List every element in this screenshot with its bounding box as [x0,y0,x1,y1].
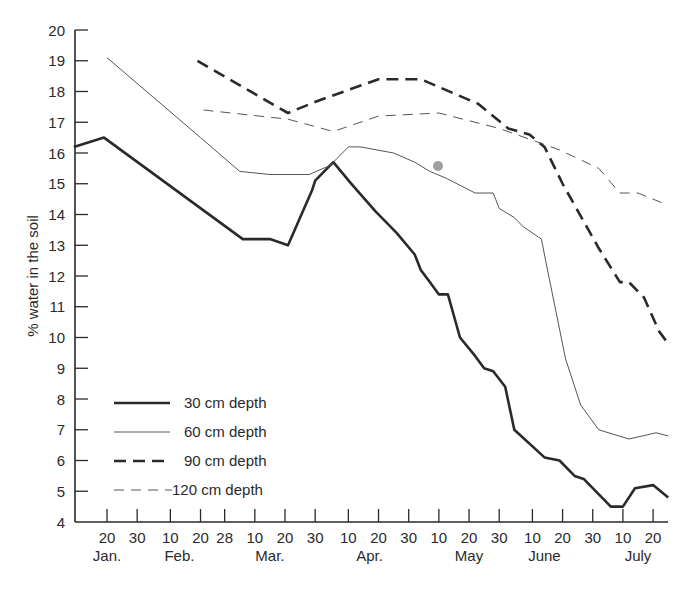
month-label: Mar. [255,547,284,564]
y-tick-label: 6 [57,452,65,469]
month-label: May [455,547,484,564]
x-tick-label: 10 [162,529,179,546]
x-tick-label: 10 [524,529,541,546]
y-tick-label: 18 [48,83,65,100]
x-tick-label: 10 [431,529,448,546]
y-tick-label: 20 [48,22,65,39]
y-tick-label: 14 [48,206,65,223]
x-tick-label: 30 [584,529,601,546]
x-tick-label: 20 [192,529,209,546]
x-tick-label: 28 [216,529,233,546]
y-tick-label: 12 [48,268,65,285]
x-tick-label: 10 [340,529,357,546]
x-tick-label: 30 [491,529,508,546]
x-tick-label: 20 [645,529,662,546]
ink-smudge [433,161,443,171]
legend-label-60cm: 60 cm depth [184,423,267,440]
x-axis-ticks: 20301020281020301020301020301020301020Ja… [93,509,662,564]
month-label: Feb. [164,547,194,564]
x-tick-label: 30 [129,529,146,546]
x-tick-label: 20 [461,529,478,546]
y-tick-label: 7 [57,421,65,438]
y-tick-label: 10 [48,329,65,346]
legend-label-90cm: 90 cm depth [184,452,267,469]
series-line-30cm [74,138,668,507]
y-axis-ticks: 4567891011121314151617181920 [48,22,88,531]
y-tick-label: 17 [48,114,65,131]
x-tick-label: 20 [554,529,571,546]
series-line-90cm [198,61,669,344]
x-tick-label: 30 [400,529,417,546]
x-tick-label: 30 [307,529,324,546]
data-series [74,58,668,507]
x-tick-label: 10 [246,529,263,546]
y-tick-label: 15 [48,175,65,192]
legend: 30 cm depth 60 cm depth 90 cm depth 120 … [114,394,267,498]
x-tick-label: 20 [99,529,116,546]
axes [75,30,668,522]
y-axis-label: % water in the soil [24,215,41,337]
y-tick-label: 13 [48,237,65,254]
soil-water-chart: 4567891011121314151617181920 20301020281… [0,0,697,593]
legend-label-30cm: 30 cm depth [184,394,267,411]
y-tick-label: 16 [48,145,65,162]
y-tick-label: 4 [57,514,65,531]
legend-label-120cm: 120 cm depth [172,481,263,498]
y-tick-label: 11 [49,298,65,315]
y-tick-label: 9 [57,360,65,377]
y-tick-label: 19 [48,52,65,69]
month-label: July [625,547,652,564]
x-tick-label: 20 [277,529,294,546]
series-line-60cm [107,58,668,439]
x-tick-label: 10 [615,529,632,546]
series-line-120cm [204,110,669,205]
x-tick-label: 20 [370,529,387,546]
month-label: Jan. [93,547,121,564]
month-label: June [528,547,561,564]
y-tick-label: 5 [57,483,65,500]
month-label: Apr. [356,547,383,564]
y-tick-label: 8 [57,391,65,408]
